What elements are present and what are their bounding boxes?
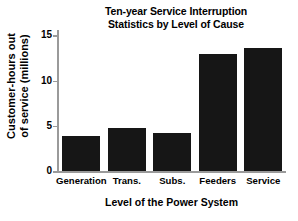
bar-chart-figure: Ten-year Service Interruption Statistics…	[0, 0, 298, 221]
bar-subs	[153, 133, 191, 171]
y-tick-label: 5	[46, 121, 52, 131]
x-category-label-service: Service	[236, 175, 291, 187]
chart-title-line-1: Ten-year Service Interruption	[58, 5, 294, 18]
chart-title-line-2: Statistics by Level of Cause	[58, 18, 294, 31]
bar-series	[59, 30, 286, 171]
y-tick-label: 15	[41, 30, 52, 40]
x-axis-title: Level of the Power System	[57, 196, 286, 208]
chart-title: Ten-year Service Interruption Statistics…	[58, 5, 294, 30]
y-axis-title-line-1: Customer-hours out	[5, 33, 18, 139]
y-axis-title: Customer-hours out of service (millions)	[0, 6, 36, 166]
bar-trans	[108, 128, 146, 172]
y-tick-label: 0	[46, 166, 52, 176]
y-tick-label: 10	[41, 76, 52, 86]
x-axis-line	[57, 171, 286, 173]
y-tick-mark	[53, 171, 58, 172]
x-axis-category-labels: GenerationTrans.Subs.FeedersService	[57, 175, 286, 189]
y-tick-mark	[53, 35, 58, 36]
y-tick-mark	[53, 81, 58, 82]
bar-feeders	[199, 54, 237, 171]
plot-area: 051015	[57, 30, 286, 173]
y-axis-title-line-2: of service (millions)	[18, 33, 31, 139]
y-tick-mark	[53, 126, 58, 127]
bar-service	[244, 48, 282, 171]
bar-generation	[62, 136, 100, 171]
